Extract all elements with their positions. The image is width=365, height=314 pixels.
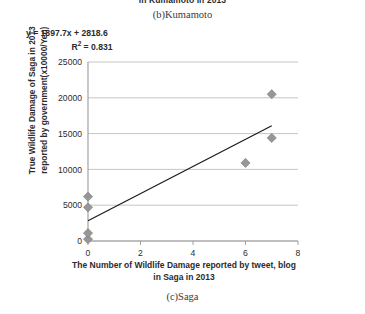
y-axis-tick-label: 5000 <box>63 200 82 210</box>
data-point-marker <box>241 158 250 167</box>
x-axis-tick-label: 6 <box>243 248 248 258</box>
y-axis-tick-label: 15000 <box>58 129 82 139</box>
x-axis-tick-label: 8 <box>296 248 301 258</box>
data-point-marker <box>83 192 92 201</box>
y-axis-tick-label: 20000 <box>58 93 82 103</box>
x-axis-tick-label: 4 <box>191 248 196 258</box>
y-axis-tick-label: 25000 <box>58 57 82 67</box>
y-axis-tick-label: 0 <box>77 236 82 246</box>
panel-c-caption: (c)Saga <box>0 291 365 302</box>
x-axis-title: The Number of Wildlife Damage reported b… <box>34 259 334 284</box>
trendline <box>88 126 272 221</box>
x-axis-title-line2: in Saga in 2013 <box>34 271 334 283</box>
data-point-marker <box>83 229 92 238</box>
data-point-marker <box>267 133 276 142</box>
x-axis-tick-label: 0 <box>86 248 91 258</box>
data-point-marker <box>83 203 92 212</box>
x-axis-tick-label: 2 <box>138 248 143 258</box>
x-axis-title-line1: The Number of Wildlife Damage reported b… <box>34 259 334 271</box>
y-axis-tick-label: 10000 <box>58 165 82 175</box>
